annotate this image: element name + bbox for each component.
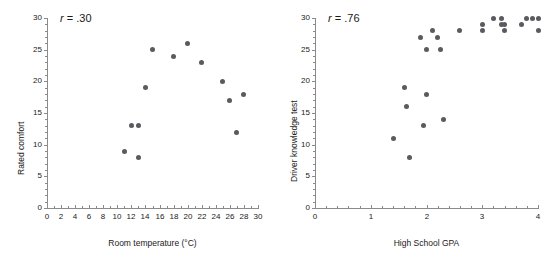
x-axis-title: High School GPA [315,238,538,248]
correlation-value: = .76 [332,12,360,24]
x-axis-tick [482,205,483,208]
x-axis-tick-label: 0 [305,212,325,221]
correlation-value: = .30 [64,12,92,24]
y-axis-minor-tick [313,100,315,101]
data-point [171,54,176,59]
data-point [129,123,134,128]
x-axis-tick [160,205,161,208]
data-point [418,35,423,40]
x-axis-minor-tick [360,206,361,208]
data-point [391,136,396,141]
data-point [480,28,485,33]
x-axis-tick [61,205,62,208]
y-axis-minor-tick [313,75,315,76]
y-axis-minor-tick [45,119,47,120]
x-axis-minor-tick [527,206,528,208]
x-axis-minor-tick [438,206,439,208]
y-axis-tick-label: 0 [19,203,42,212]
y-axis-tick-label: 20 [19,76,42,85]
data-point [438,47,443,52]
data-point [499,16,504,21]
y-axis-minor-tick [45,189,47,190]
y-axis-tick [312,81,315,82]
y-axis-minor-tick [313,31,315,32]
y-axis-tick [44,18,47,19]
y-axis-minor-tick [45,69,47,70]
x-axis-minor-tick [209,206,210,208]
y-axis-tick [44,113,47,114]
data-point [143,85,148,90]
y-axis-tick [312,208,315,209]
data-point [536,28,541,33]
x-axis-minor-tick [195,206,196,208]
y-axis-minor-tick [313,94,315,95]
y-axis-minor-tick [313,170,315,171]
x-axis-minor-tick [153,206,154,208]
x-axis-tick [258,205,259,208]
x-axis-tick [89,205,90,208]
y-axis-title: Rated comfort [16,122,26,175]
y-axis-minor-tick [45,157,47,158]
x-axis-tick [131,205,132,208]
x-axis-minor-tick [393,206,394,208]
y-axis-minor-tick [45,37,47,38]
x-axis-tick [371,205,372,208]
y-axis-minor-tick [45,31,47,32]
y-axis-tick [312,176,315,177]
y-axis-minor-tick [313,138,315,139]
scatterplot-figure: 051015202530024681012141618202224262830R… [0,0,551,268]
y-axis-tick [312,113,315,114]
y-axis-minor-tick [45,43,47,44]
data-point [227,98,232,103]
data-point [402,85,407,90]
x-axis-tick [230,205,231,208]
y-axis-line [315,18,316,209]
x-axis-minor-tick [138,206,139,208]
x-axis-tick [427,205,428,208]
y-axis-minor-tick [313,69,315,70]
y-axis-minor-tick [45,183,47,184]
x-axis-minor-tick [404,206,405,208]
x-axis-minor-tick [237,206,238,208]
y-axis-minor-tick [45,170,47,171]
data-point [441,117,446,122]
data-point [424,47,429,52]
y-axis-minor-tick [45,164,47,165]
y-axis-minor-tick [313,126,315,127]
y-axis-minor-tick [45,75,47,76]
x-axis-minor-tick [251,206,252,208]
x-axis-tick [202,205,203,208]
x-axis-line [315,208,539,209]
chart-panel-left: 051015202530024681012141618202224262830R… [0,0,276,268]
y-axis-tick [312,18,315,19]
y-axis-tick [312,145,315,146]
x-axis-minor-tick [471,206,472,208]
y-axis-minor-tick [313,183,315,184]
x-axis-tick [75,205,76,208]
x-axis-minor-tick [82,206,83,208]
y-axis-tick-label: 30 [19,13,42,22]
x-axis-tick [47,205,48,208]
y-axis-minor-tick [313,119,315,120]
y-axis-minor-tick [313,164,315,165]
y-axis-minor-tick [313,107,315,108]
y-axis-tick [44,208,47,209]
y-axis-minor-tick [45,195,47,196]
x-axis-tick [174,205,175,208]
data-point [536,16,541,21]
x-axis-minor-tick [505,206,506,208]
y-axis-minor-tick [45,202,47,203]
data-point [241,92,246,97]
y-axis-minor-tick [313,157,315,158]
x-axis-tick-label: 30 [248,212,268,221]
data-point [480,22,485,27]
data-point [407,155,412,160]
x-axis-minor-tick [382,206,383,208]
data-point [150,47,155,52]
y-axis-minor-tick [313,132,315,133]
y-axis-minor-tick [313,43,315,44]
data-point [457,28,462,33]
y-axis-minor-tick [313,151,315,152]
x-axis-tick-label: 2 [417,212,437,221]
y-axis-tick [44,81,47,82]
